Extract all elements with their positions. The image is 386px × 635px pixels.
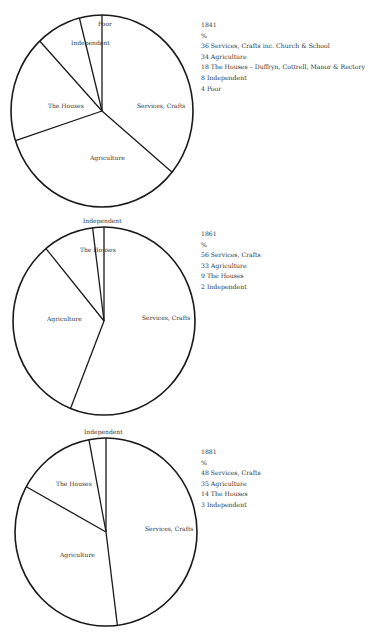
slice-label: Agriculture xyxy=(59,551,95,559)
legend-entry: 33 Agriculture xyxy=(201,261,261,272)
legend-1861: 1861 % 56 Services, Crafts 33 Agricultur… xyxy=(201,229,261,293)
slice-label: Independent xyxy=(71,39,110,47)
slice-label: The Houses xyxy=(48,102,84,109)
legend-unit: % xyxy=(201,458,261,469)
legend-title: 1861 xyxy=(201,229,261,240)
legend-entry: 56 Services, Crafts xyxy=(201,250,261,261)
slice-label: Services, Crafts xyxy=(142,314,190,321)
slice-label: Agriculture xyxy=(89,154,125,162)
legend-1841: 1841 % 36 Services, Crafts inc. Church &… xyxy=(201,20,365,94)
legend-entry: 3 Independent xyxy=(201,500,261,511)
slice-label: The Houses xyxy=(80,246,116,253)
pie-charts: Services, CraftsAgricultureThe HousesInd… xyxy=(0,0,386,635)
legend-entry: 18 The Houses – Duffryn, Cottrell, Manor… xyxy=(201,62,365,73)
slice-label: Services, Crafts xyxy=(145,525,193,532)
legend-entry: 8 Independent xyxy=(201,73,365,84)
slice-label: Services, Crafts xyxy=(137,102,185,109)
legend-entry: 35 Agriculture xyxy=(201,479,261,490)
legend-entry: 14 The Houses xyxy=(201,489,261,500)
legend-entry: 36 Services, Crafts inc. Church & School xyxy=(201,41,365,52)
pie-chart-1861: Services, CraftsAgricultureThe HousesInd… xyxy=(13,217,195,415)
legend-title: 1841 xyxy=(201,20,365,31)
pie-chart-1841: Services, CraftsAgricultureThe HousesInd… xyxy=(11,15,193,207)
legend-1881: 1881 % 48 Services, Crafts 35 Agricultur… xyxy=(201,447,261,511)
legend-entry: 9 The Houses xyxy=(201,271,261,282)
slice-label: The Houses xyxy=(56,480,92,487)
legend-entry: 48 Services, Crafts xyxy=(201,468,261,479)
legend-entry: 4 Poor xyxy=(201,84,365,95)
legend-unit: % xyxy=(201,240,261,251)
pie-chart-1881: Services, CraftsAgricultureThe HousesInd… xyxy=(15,428,197,626)
slice-label: Independent xyxy=(83,217,122,225)
slice-label: Independent xyxy=(84,428,123,436)
legend-entry: 2 Independent xyxy=(201,282,261,293)
legend-unit: % xyxy=(201,31,365,42)
slice-label: Agriculture xyxy=(46,315,82,323)
slice-label: Poor xyxy=(98,20,112,27)
legend-entry: 34 Agriculture xyxy=(201,52,365,63)
legend-title: 1881 xyxy=(201,447,261,458)
